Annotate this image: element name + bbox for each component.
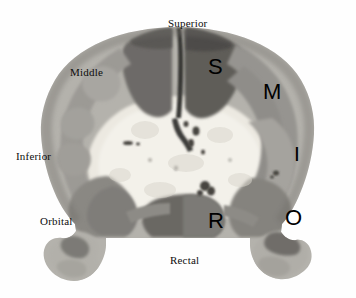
brain-figure: Superior Middle Inferior Orbital Rectal … — [0, 0, 356, 298]
label-superior: Superior — [168, 18, 207, 29]
label-orbital: Orbital — [40, 216, 73, 227]
region-letter-i: I — [294, 143, 300, 164]
region-letter-m: M — [263, 81, 281, 103]
label-rectal: Rectal — [170, 255, 199, 266]
label-middle: Middle — [70, 67, 103, 78]
region-letter-o: O — [285, 207, 302, 229]
label-inferior: Inferior — [16, 151, 51, 162]
region-letter-s: S — [208, 56, 223, 78]
region-letter-r: R — [208, 210, 224, 232]
